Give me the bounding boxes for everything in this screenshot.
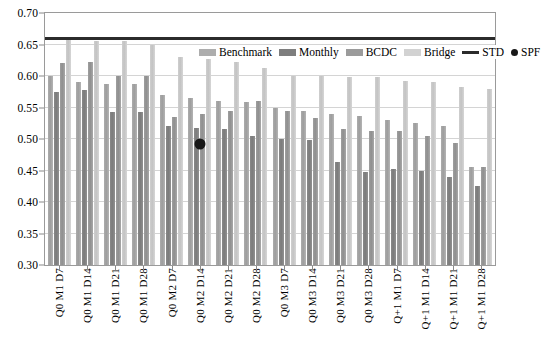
x-axis-tick-label: Q+1 M1 D28 <box>475 268 487 329</box>
legend-item-monthly: Monthly <box>279 46 339 58</box>
x-axis-tick-label: Q0 M3 D21 <box>334 268 346 323</box>
bar-bridge <box>178 57 183 265</box>
bar-benchmark <box>329 114 334 265</box>
y-axis-tick-label: 0.45 <box>17 165 38 177</box>
bar-bridge <box>375 77 380 265</box>
bar-monthly <box>419 171 424 266</box>
bar-bcdc <box>285 111 290 265</box>
bar-benchmark <box>301 111 306 265</box>
bar-monthly <box>279 139 284 265</box>
bar-bcdc <box>88 62 93 265</box>
bar-benchmark <box>48 76 53 265</box>
bar-group <box>129 13 157 265</box>
bar-benchmark <box>160 95 165 265</box>
bar-bridge <box>206 48 211 265</box>
bar-bridge <box>319 76 324 265</box>
bar-bcdc <box>256 101 261 265</box>
bar-benchmark <box>216 101 221 265</box>
x-axis-tick-label: Q+1 M1 D14 <box>419 268 431 329</box>
x-axis-tick-label: Q0 M1 D28 <box>137 268 149 323</box>
bar-bridge <box>291 76 296 265</box>
bar-bridge <box>431 82 436 265</box>
bar-monthly <box>335 162 340 265</box>
bar-bcdc <box>172 117 177 265</box>
x-axis-tick-label: Q0 M1 D7 <box>53 268 65 317</box>
x-axis-tick-label: Q0 M2 D21 <box>222 268 234 323</box>
bar-benchmark <box>132 84 137 265</box>
bar-monthly <box>138 112 143 265</box>
x-axis-tick-mark <box>340 266 341 270</box>
legend-item-bcdc: BCDC <box>346 46 397 58</box>
y-axis-tick-label: 0.50 <box>17 133 38 145</box>
bar-monthly <box>82 90 87 265</box>
x-axis-tick-mark <box>59 266 60 270</box>
bar-bcdc <box>425 136 430 265</box>
legend-label: Monthly <box>299 46 339 58</box>
bar-benchmark <box>469 167 474 265</box>
bar-benchmark <box>441 126 446 265</box>
y-axis-tick-label: 0.55 <box>17 102 38 114</box>
bar-benchmark <box>273 108 278 266</box>
chart-legend: BenchmarkMonthlyBCDCBridgeSTDSPF <box>196 45 543 59</box>
x-axis-tick-label: Q0 M2 D14 <box>194 268 206 323</box>
x-axis-tick-mark <box>312 266 313 270</box>
x-axis-tick-label: Q+1 M1 D21 <box>447 268 459 329</box>
legend-label: SPF <box>521 46 540 58</box>
bar-bcdc <box>116 76 121 265</box>
bar-bridge <box>403 81 408 265</box>
bar-monthly <box>391 169 396 265</box>
x-axis-tick-mark <box>368 266 369 270</box>
bar-benchmark <box>76 82 81 265</box>
y-axis: 0.700.650.600.550.500.450.400.350.30 <box>0 0 44 279</box>
legend-swatch-icon <box>404 49 421 56</box>
bar-bridge <box>487 89 492 265</box>
legend-item-std: STD <box>462 46 504 58</box>
y-axis-tick-label: 0.30 <box>17 259 38 271</box>
legend-label: Bridge <box>424 46 455 58</box>
x-axis: Q0 M1 D7Q0 M1 D14Q0 M1 D21Q0 M1 D28Q0 M2… <box>45 268 495 339</box>
x-axis-tick-label: Q0 M1 D14 <box>81 268 93 323</box>
bar-group <box>45 13 73 265</box>
bar-group <box>158 13 186 265</box>
bar-bcdc <box>144 76 149 265</box>
bar-bcdc <box>453 143 458 265</box>
x-axis-tick-mark <box>200 266 201 270</box>
bar-monthly <box>307 140 312 265</box>
bar-bridge <box>262 68 267 265</box>
legend-line-icon <box>462 51 479 54</box>
x-axis-tick-mark <box>143 266 144 270</box>
bar-group <box>101 13 129 265</box>
y-axis-tick-label: 0.65 <box>17 39 38 51</box>
legend-label: BCDC <box>366 46 397 58</box>
bar-monthly <box>222 129 227 265</box>
x-axis-tick-label: Q0 M3 D28 <box>362 268 374 323</box>
x-axis-tick-mark <box>481 266 482 270</box>
bar-bridge <box>94 41 99 265</box>
bar-monthly <box>363 172 368 265</box>
bar-bridge <box>347 77 352 265</box>
bar-bridge <box>150 45 155 266</box>
spf-point-marker <box>194 139 205 150</box>
x-axis-tick-mark <box>256 266 257 270</box>
x-axis-tick-mark <box>172 266 173 270</box>
x-axis-tick-label: Q+1 M1 D7 <box>391 268 403 324</box>
bar-bridge <box>234 62 239 265</box>
x-axis-tick-label: Q0 M3 D14 <box>306 268 318 323</box>
y-axis-tick-label: 0.70 <box>17 7 38 19</box>
bar-bcdc <box>228 111 233 265</box>
bar-group <box>73 13 101 265</box>
bar-benchmark <box>244 102 249 265</box>
x-axis-tick-label: Q0 M3 D7 <box>278 268 290 317</box>
bar-bcdc <box>369 131 374 265</box>
bar-bcdc <box>481 167 486 265</box>
x-axis-tick-mark <box>87 266 88 270</box>
bar-bcdc <box>200 114 205 265</box>
x-axis-tick-mark <box>115 266 116 270</box>
legend-swatch-icon <box>346 49 363 56</box>
legend-dot-icon <box>511 49 518 56</box>
x-axis-tick-mark <box>284 266 285 270</box>
legend-label: Benchmark <box>219 46 272 58</box>
bar-benchmark <box>188 98 193 265</box>
x-axis-tick-mark <box>228 266 229 270</box>
